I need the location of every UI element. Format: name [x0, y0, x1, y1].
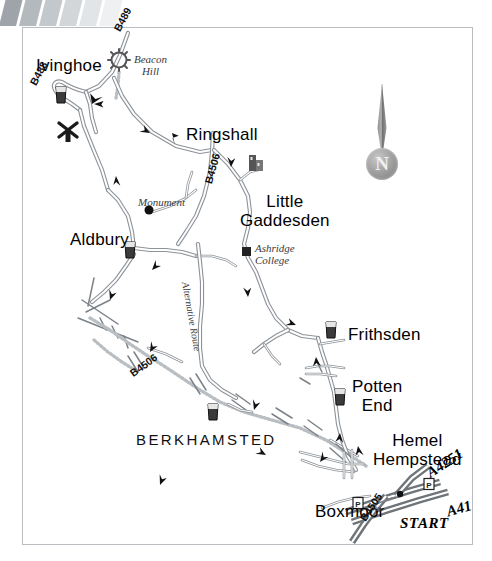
compass-needle-icon [374, 84, 390, 158]
pub-glass-icon [335, 389, 345, 405]
map-roads-layer: .rd { fill:none; stroke:#8d9399; stroke-… [0, 0, 492, 561]
pub-glass-icon [326, 322, 336, 338]
map-page: .rd { fill:none; stroke:#8d9399; stroke-… [0, 0, 492, 561]
place-label-little-gaddesden: Little Gaddesden [240, 192, 330, 230]
compass-north-label: N [366, 148, 398, 180]
windmill-icon [59, 123, 77, 142]
svg-text:P: P [426, 481, 432, 490]
feature-label-beacon-hill: Beacon Hill [134, 53, 167, 78]
north-compass: N [356, 84, 408, 182]
map-square-icon [242, 247, 251, 256]
place-label-ringshall: Ringshall [186, 126, 258, 143]
place-label-aldbury: Aldbury [70, 231, 129, 248]
place-label-potten-end: Potten End [352, 377, 402, 415]
pub-glass-icon [208, 404, 218, 420]
pub-glass-icon [56, 87, 66, 103]
church-icon [249, 155, 263, 171]
feature-label-monument: Monument [138, 196, 185, 208]
start-dot-icon [397, 491, 403, 497]
start-label: START [400, 516, 449, 531]
place-label-frithsden: Frithsden [348, 326, 421, 343]
place-label-berkhamsted: BERKHAMSTED [136, 432, 277, 447]
feature-label-ashridge-college: Ashridge College [255, 242, 295, 267]
